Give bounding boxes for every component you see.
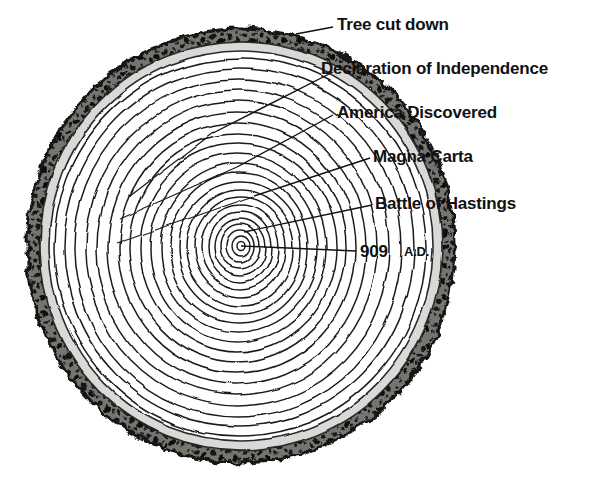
label-america-discovered: America Discovered: [337, 104, 497, 121]
label-magna-carta: Magna Carta: [373, 148, 473, 165]
label-declaration-of-independence: Declaration of Independence: [321, 60, 548, 77]
label-tree-cut-down: Tree cut down: [337, 16, 449, 33]
tree-ring-figure: Tree cut down Declaration of Independenc…: [0, 0, 593, 479]
label-era-ad: A.D.: [404, 245, 429, 258]
label-year-909: 909: [360, 243, 388, 260]
tree-cut-down-leader: [296, 27, 333, 34]
label-battle-of-hastings: Battle of Hastings: [375, 195, 516, 212]
